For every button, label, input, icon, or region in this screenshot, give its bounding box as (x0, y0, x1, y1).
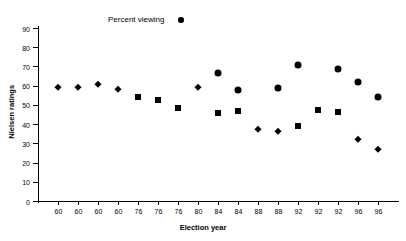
x-tick-label: 84 (235, 208, 243, 215)
data-point-square-5 (155, 97, 161, 103)
x-tick-mark (278, 201, 279, 205)
x-tick-label: 84 (215, 208, 223, 215)
data-point-square-16 (295, 123, 301, 129)
x-tick-mark (238, 201, 239, 205)
x-tick-1: 60 (58, 201, 59, 205)
x-axis-title: Election year (0, 224, 406, 232)
legend-label-percent-viewing: Percent viewing (108, 16, 164, 24)
x-tick-5: 76 (138, 201, 139, 205)
data-point-square-11 (235, 108, 241, 114)
x-tick-10: 84 (238, 201, 239, 205)
x-tick-2: 60 (78, 201, 79, 205)
x-tick-mark (218, 201, 219, 205)
data-point-circle-10 (235, 87, 242, 94)
x-tick-mark (118, 201, 119, 205)
y-tick-label: 30 (22, 140, 30, 147)
x-tick-label: 60 (55, 208, 63, 215)
x-tick-mark (98, 201, 99, 205)
y-axis-title: Nielsen ratings (8, 62, 16, 162)
x-tick-16: 96 (358, 201, 359, 205)
x-tick-label: 76 (155, 208, 163, 215)
x-tick-3: 60 (98, 201, 99, 205)
y-tick-label: 80 (22, 44, 30, 51)
x-tick-mark (378, 201, 379, 205)
data-point-circle-18 (335, 65, 342, 72)
x-tick-label: 96 (375, 208, 383, 215)
x-tick-mark (158, 201, 159, 205)
x-tick-mark (318, 201, 319, 205)
x-tick-label: 60 (115, 208, 123, 215)
x-tick-mark (138, 201, 139, 205)
x-tick-mark (178, 201, 179, 205)
x-tick-mark (198, 201, 199, 205)
data-point-circle-15 (295, 62, 302, 69)
y-tick-label: 20 (22, 160, 30, 167)
x-tick-17: 96 (378, 201, 379, 205)
chart-container: 0102030405060708090 60606060767676808484… (0, 0, 406, 241)
y-tick-mark (33, 201, 38, 202)
data-point-square-9 (215, 110, 221, 116)
data-point-circle-20 (355, 79, 362, 86)
data-point-circle-13 (275, 84, 282, 91)
x-tick-label: 96 (355, 208, 363, 215)
x-tick-12: 88 (278, 201, 279, 205)
x-tick-4: 60 (118, 201, 119, 205)
data-point-square-6 (175, 105, 181, 111)
x-tick-11: 88 (258, 201, 259, 205)
x-tick-9: 84 (218, 201, 219, 205)
x-tick-label: 76 (175, 208, 183, 215)
y-tick-label: 60 (22, 83, 30, 90)
x-tick-mark (298, 201, 299, 205)
x-tick-15: 92 (338, 201, 339, 205)
y-tick-0: 0 (33, 201, 38, 202)
x-tick-label: 92 (335, 208, 343, 215)
x-tick-label: 60 (75, 208, 83, 215)
data-point-circle-8 (215, 69, 222, 76)
x-tick-7: 76 (178, 201, 179, 205)
y-tick-label: 10 (22, 179, 30, 186)
data-point-square-19 (335, 109, 341, 115)
data-point-square-4 (135, 94, 141, 100)
x-tick-label: 76 (135, 208, 143, 215)
x-tick-mark (358, 201, 359, 205)
y-tick-label: 50 (22, 102, 30, 109)
y-tick-label: 90 (22, 25, 30, 32)
x-tick-label: 80 (195, 208, 203, 215)
x-tick-8: 80 (198, 201, 199, 205)
x-tick-label: 88 (275, 208, 283, 215)
data-point-circle-22 (375, 94, 382, 101)
x-tick-label: 60 (95, 208, 103, 215)
y-tick-label: 70 (22, 63, 30, 70)
legend-marker-circle-icon (178, 17, 184, 23)
x-tick-mark (78, 201, 79, 205)
x-tick-mark (58, 201, 59, 205)
x-tick-label: 92 (295, 208, 303, 215)
x-tick-label: 88 (255, 208, 263, 215)
y-tick-label: 0 (26, 198, 30, 205)
data-point-square-17 (315, 107, 321, 113)
x-tick-mark (258, 201, 259, 205)
x-tick-mark (338, 201, 339, 205)
y-tick-label: 40 (22, 121, 30, 128)
x-tick-13: 92 (298, 201, 299, 205)
x-tick-6: 76 (158, 201, 159, 205)
x-tick-14: 92 (318, 201, 319, 205)
x-tick-label: 92 (315, 208, 323, 215)
legend: Percent viewing (108, 16, 184, 24)
